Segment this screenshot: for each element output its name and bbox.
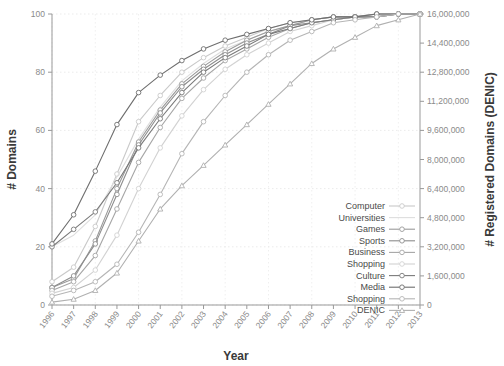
series-marker <box>93 268 98 273</box>
series-marker <box>288 26 293 31</box>
y-tick-label-right: 12,800,000 <box>427 67 470 77</box>
legend-item-media-7[interactable]: Media <box>360 282 415 292</box>
series-marker <box>309 18 314 23</box>
y-axis-title-right: # Registered Domains (DENIC) <box>483 72 497 247</box>
series-marker <box>396 12 401 17</box>
series-marker <box>180 90 185 95</box>
series-marker <box>71 279 76 284</box>
series-marker <box>223 67 228 72</box>
y-tick-label-right: 4,800,000 <box>427 213 465 223</box>
series-marker <box>266 26 271 31</box>
series-marker <box>115 207 120 212</box>
series-marker <box>115 262 120 267</box>
series-marker <box>288 38 293 43</box>
series-marker <box>201 76 206 81</box>
series-marker <box>245 70 250 75</box>
series-marker <box>353 18 358 23</box>
series-marker <box>223 44 228 49</box>
legend-item-culture-6[interactable]: Culture <box>356 271 415 281</box>
x-tick-label: 2004 <box>210 309 230 330</box>
series-marker <box>201 55 206 60</box>
legend-item-universities-1[interactable]: Universities <box>338 213 415 223</box>
series-marker <box>180 114 185 119</box>
series-marker <box>93 253 98 258</box>
legend-item-label: DENIC <box>357 305 386 315</box>
legend-item-denic-9[interactable]: DENIC <box>357 305 415 315</box>
series-marker <box>331 20 336 25</box>
legend-item-label: Games <box>356 224 386 234</box>
legend-item-label: Universities <box>338 213 385 223</box>
series-marker <box>158 93 163 98</box>
x-tick-label: 1996 <box>37 309 57 330</box>
series-marker <box>158 125 163 130</box>
legend-sample-marker <box>400 227 405 232</box>
series-media-7 <box>50 12 423 246</box>
series-marker <box>180 70 185 75</box>
series-marker <box>93 242 98 247</box>
y-tick-label-right: 11,200,000 <box>427 96 469 106</box>
x-tick-label: 2008 <box>297 309 317 330</box>
series-marker <box>180 151 185 156</box>
y-tick-label-left: 100 <box>31 9 45 19</box>
y-axis-right: 01,600,0003,200,0004,800,0006,400,0008,0… <box>420 9 470 310</box>
series-marker <box>71 212 76 217</box>
x-tick-label: 2000 <box>124 309 144 330</box>
series-marker <box>266 32 271 37</box>
x-tick-label: 2006 <box>254 309 274 330</box>
series-marker <box>374 15 379 20</box>
series-marker <box>93 224 98 229</box>
y-tick-label-right: 0 <box>427 300 432 310</box>
legend-sample-marker <box>400 262 405 267</box>
legend-item-sports-3[interactable]: Sports <box>359 236 415 246</box>
x-tick-label: 2003 <box>189 309 209 330</box>
series-marker <box>158 111 163 116</box>
legend-item-computer-0[interactable]: Computer <box>345 201 415 211</box>
legend-sample-marker <box>400 273 405 278</box>
y-tick-label-right: 9,600,000 <box>427 125 465 135</box>
y-axis-title-left: # Domains <box>5 129 19 190</box>
y-tick-label-left: 40 <box>36 184 46 194</box>
series-marker <box>201 70 206 75</box>
legend-item-shopping-8[interactable]: Shopping <box>347 294 415 304</box>
legend-item-business-4[interactable]: Business <box>348 247 415 257</box>
series-marker <box>158 73 163 78</box>
x-axis-title: Year <box>223 349 249 363</box>
x-tick-label: 1999 <box>102 309 122 330</box>
series-marker <box>180 96 185 101</box>
series-marker <box>158 146 163 151</box>
legend-item-label: Media <box>360 282 385 292</box>
y-tick-label-right: 1,600,000 <box>427 271 465 281</box>
series-marker <box>331 46 336 51</box>
x-tick-label: 1997 <box>59 309 79 330</box>
legend-item-label: Shopping <box>347 259 385 269</box>
series-marker <box>288 20 293 25</box>
y-tick-label-right: 8,000,000 <box>427 155 465 165</box>
legend: ComputerUniversitiesGamesSportsBusinessS… <box>338 201 415 315</box>
series-marker <box>115 192 120 197</box>
legend-item-shopping-5[interactable]: Shopping <box>347 259 415 269</box>
series-marker <box>223 55 228 60</box>
series-marker <box>309 29 314 34</box>
x-tick-label: 2002 <box>167 309 187 330</box>
x-tick-label: 2007 <box>275 309 295 330</box>
x-tick-label: 2005 <box>232 309 252 330</box>
series-marker <box>136 90 141 95</box>
chart-container: 02040608010001,600,0003,200,0004,800,000… <box>0 0 504 366</box>
series-marker <box>93 210 98 215</box>
y-tick-label-left: 60 <box>36 125 46 135</box>
series-marker <box>266 41 271 46</box>
legend-item-games-2[interactable]: Games <box>356 224 415 234</box>
series-marker <box>352 35 357 40</box>
legend-item-label: Sports <box>359 236 386 246</box>
series-marker <box>266 52 271 57</box>
series-marker <box>331 15 336 20</box>
legend-sample-marker <box>400 204 405 209</box>
y-tick-label-right: 14,400,000 <box>427 38 470 48</box>
series-marker <box>71 274 76 279</box>
x-tick-label: 2001 <box>145 309 165 330</box>
x-tick-label: 2009 <box>318 309 338 330</box>
series-marker <box>50 279 55 284</box>
legend-sample-marker <box>400 285 405 290</box>
y-tick-label-left: 0 <box>40 300 45 310</box>
series-marker <box>245 44 250 49</box>
